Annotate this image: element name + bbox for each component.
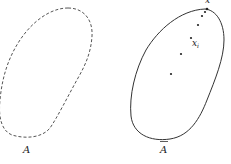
- set-a-label: A: [22, 144, 30, 155]
- limit-label: x: [205, 0, 210, 5]
- sequence-point: [204, 11, 206, 13]
- sequence-point: [201, 15, 203, 17]
- set-a-closure-label: A: [159, 144, 167, 155]
- limit-point: [206, 8, 209, 11]
- closure-diagram: xi x A A: [0, 0, 231, 164]
- sequence-point: [170, 73, 172, 75]
- sequence-point: [180, 53, 182, 55]
- set-a-boundary: [0, 8, 92, 137]
- sequence-points: [170, 8, 208, 75]
- sequence-point: [197, 24, 199, 26]
- set-a-closure-boundary: [131, 9, 224, 140]
- sequence-label: xi: [192, 38, 199, 49]
